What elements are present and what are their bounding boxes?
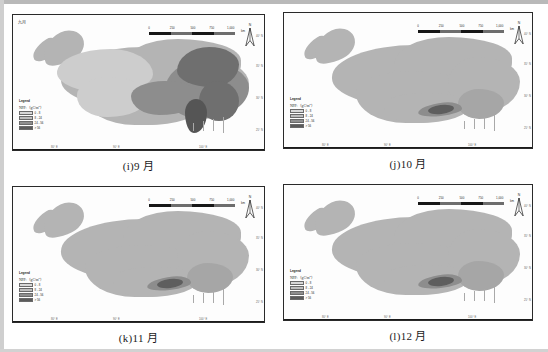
legend-class-label: 8 - 24 [306, 114, 313, 118]
scale-tick-label: 250 [439, 24, 444, 28]
legend-row: 24 - 56 [19, 121, 67, 125]
plateau-fringe [193, 123, 194, 131]
latitude-tick-label: 40° N [256, 207, 263, 210]
scale-tick-label: 750 [209, 26, 214, 30]
legend-title: Legend [290, 269, 338, 273]
map-panel-j: 40° N 35° N 30° N 25° N 80° E 90° E 100°… [283, 12, 533, 171]
legend-swatch [290, 291, 304, 295]
legend-class-label: 0 - 8 [306, 281, 312, 285]
legend-class-label: 8 - 24 [306, 286, 313, 290]
legend-l: Legend NPP:（gC/m2） 0 - 8 8 - 24 24 - 56 … [290, 269, 338, 300]
legend-row: 0 - 8 [19, 111, 67, 115]
scale-tick-label: 500 [190, 198, 195, 202]
longitude-tick-label: 90° E [384, 144, 391, 147]
scale-bar-segment [214, 32, 236, 35]
legend-row: 8 - 24 [19, 116, 67, 120]
legend-subtitle: NPP:（gC/m2） [19, 105, 67, 110]
scale-bar-segment [192, 32, 214, 35]
longitude-tick-label: 90° E [113, 146, 120, 149]
scale-tick-label: 0 [417, 196, 419, 200]
legend-row: 8 - 24 [290, 286, 338, 290]
scale-bar-k: 0 250 500 750 1,000 km [149, 198, 235, 207]
legend-subtitle-tail: ） [311, 276, 315, 280]
scale-bar-segment [461, 30, 483, 33]
north-arrow-icon [512, 197, 526, 217]
legend-class-label: 0 - 8 [35, 111, 41, 115]
scale-bar-segment [440, 30, 462, 33]
legend-row: 8 - 24 [290, 114, 338, 118]
panel-caption-j: (j)10 月 [283, 155, 533, 171]
legend-j: Legend NPP:（gC/m2） 0 - 8 8 - 24 24 - 56 … [290, 97, 338, 128]
legend-row: > 56 [290, 296, 338, 300]
plateau-fringe [223, 117, 224, 133]
legend-row: 8 - 24 [19, 288, 67, 292]
legend-row: > 56 [19, 298, 67, 302]
plateau-fringe [484, 289, 485, 301]
legend-class-label: > 56 [306, 124, 312, 128]
legend-swatch [19, 298, 33, 302]
legend-row: > 56 [19, 126, 67, 130]
legend-class-label: > 56 [35, 298, 41, 302]
scale-tick-label: 0 [148, 26, 150, 30]
legend-subtitle-tail: ） [311, 104, 315, 108]
legend-class-label: 24 - 56 [35, 121, 44, 125]
legend-subtitle-text: NPP:（gC/m [290, 276, 310, 280]
legend-title: Legend [19, 271, 67, 275]
legend-title: Legend [19, 99, 67, 103]
graticule-longitude-line [283, 189, 285, 321]
scale-bar-segment [418, 30, 440, 33]
map-panel-i: 40° N 35° N 30° N 25° N 80° E 90° E 100°… [12, 14, 265, 173]
legend-subtitle: NPP:（gC/m2） [290, 275, 338, 280]
scale-tick-label: 500 [459, 196, 464, 200]
scale-bar-segment [440, 202, 462, 205]
scale-bar-segment [192, 204, 214, 207]
legend-swatch [19, 126, 33, 130]
legend-title: Legend [290, 97, 338, 101]
graticule-latitude-line [284, 188, 532, 189]
longitude-tick-label: 90° E [384, 316, 391, 319]
legend-swatch [19, 288, 33, 292]
legend-class-label: 24 - 56 [306, 291, 315, 295]
latitude-tick-label: 25° N [524, 127, 531, 130]
legend-row: 0 - 8 [19, 283, 67, 287]
latitude-tick-label: 35° N [256, 237, 263, 240]
scale-tick-label: 250 [170, 198, 175, 202]
scale-tick-label: 500 [459, 24, 464, 28]
plateau-fringe [494, 287, 495, 303]
legend-subtitle-tail: ） [40, 278, 44, 282]
longitude-tick-label: 100° E [468, 316, 476, 319]
panel-caption-i: (i)9 月 [12, 157, 265, 173]
latitude-tick-label: 30° N [256, 97, 263, 100]
scale-tick-label: 750 [209, 198, 214, 202]
scale-bar-segment [461, 202, 483, 205]
map-frame-k: 40° N 35° N 30° N 25° N 80° E 90° E 100°… [12, 186, 265, 323]
plateau-fringe [213, 291, 214, 303]
graticule-latitude-line [13, 18, 264, 19]
map-panel-k: 40° N 35° N 30° N 25° N 80° E 90° E 100°… [12, 186, 265, 345]
graticule-longitude-line [283, 17, 285, 149]
scale-tick-label: 250 [170, 26, 175, 30]
panel-caption-l: (l)12 月 [283, 327, 533, 343]
plateau-fringe [474, 291, 475, 301]
scale-bar-segment [418, 202, 440, 205]
legend-row: 24 - 56 [290, 291, 338, 295]
legend-class-label: > 56 [306, 296, 312, 300]
legend-swatch [290, 119, 304, 123]
figure-four-panel-npp-maps: 40° N 35° N 30° N 25° N 80° E 90° E 100°… [0, 0, 548, 352]
north-arrow-icon [512, 25, 526, 45]
scale-bar-segment [171, 204, 193, 207]
legend-row: 24 - 56 [290, 119, 338, 123]
scale-tick-label: 1,000 [227, 198, 234, 202]
panel-caption-k: (k)11 月 [12, 329, 265, 345]
legend-swatch [19, 283, 33, 287]
longitude-tick-label: 80° E [51, 318, 58, 321]
north-arrow-j: N [512, 21, 526, 47]
legend-swatch [290, 124, 304, 128]
legend-subtitle: NPP:（gC/m2） [290, 103, 338, 108]
map-frame-l: 40° N 35° N 30° N 25° N 80° E 90° E 100°… [283, 184, 533, 321]
legend-swatch [290, 109, 304, 113]
legend-class-label: 24 - 56 [306, 119, 315, 123]
scale-bar-graphic [418, 30, 504, 33]
npp-mid-class-region [458, 261, 504, 291]
latitude-tick-label: 40° N [256, 35, 263, 38]
